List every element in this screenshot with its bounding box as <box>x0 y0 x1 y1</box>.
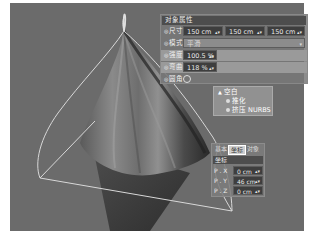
position-z-row: P . Z 0 cm ▴▾ <box>212 186 264 196</box>
size-label: 尺寸 <box>164 27 183 36</box>
tab-basic[interactable]: 基本 <box>213 145 229 153</box>
spinner-icon[interactable]: ▴▾ <box>255 177 260 186</box>
position-z-value: 0 cm <box>237 188 252 195</box>
position-y-field[interactable]: 46 cm ▴▾ <box>233 176 263 185</box>
tree-item-label: 空白 <box>224 88 238 96</box>
size-z-value: 150 cm <box>271 28 295 36</box>
spinner-icon[interactable]: ▴▾ <box>215 27 220 37</box>
coordinates-header: 坐标 <box>213 156 263 164</box>
size-x-field[interactable]: 150 cm ▴▾ <box>183 26 223 36</box>
position-z-field[interactable]: 0 cm ▴▾ <box>233 186 263 195</box>
spinner-icon[interactable]: ▴▾ <box>297 27 302 37</box>
object-tree-panel: ▲空白 推化 挤压 NURBS <box>213 86 273 116</box>
object-icon <box>226 108 230 112</box>
object-icon <box>226 99 230 103</box>
spinner-icon[interactable]: ▴▾ <box>255 167 260 176</box>
size-z-field[interactable]: 150 cm ▴▾ <box>267 26 305 36</box>
size-row: 尺寸 150 cm ▴▾ 150 cm ▴▾ 150 cm ▴▾ <box>161 26 307 37</box>
position-x-value: 0 cm <box>237 168 252 175</box>
tab-coordinates[interactable]: 坐标 <box>228 145 246 155</box>
tab-bar: 基本 坐标 对象 <box>212 144 264 154</box>
position-x-field[interactable]: 0 cm ▴▾ <box>233 166 263 175</box>
strength-row: 强度 100.5 % ▴▾ <box>161 50 307 61</box>
mode-row: 模式 平滑 ▾ <box>161 38 307 49</box>
mode-value: 平滑 <box>187 40 201 48</box>
spinner-icon[interactable]: ▴▾ <box>257 27 262 37</box>
fillet-label: 圆角 <box>164 75 183 84</box>
bend-label: 弯曲 <box>164 63 183 72</box>
spinner-icon[interactable]: ▴▾ <box>209 63 214 73</box>
bend-row: 弯曲 118 % ▴▾ <box>161 62 307 73</box>
bend-value: 118 % <box>187 64 208 72</box>
spinner-icon[interactable]: ▴▾ <box>255 187 260 196</box>
tab-object[interactable]: 对象 <box>245 145 261 153</box>
bend-field[interactable]: 118 % ▴▾ <box>183 62 217 72</box>
position-x-row: P . X 0 cm ▴▾ <box>212 166 264 176</box>
spinner-icon[interactable]: ▴▾ <box>209 51 214 61</box>
strength-field[interactable]: 100.5 % ▴▾ <box>183 50 217 60</box>
size-y-field[interactable]: 150 cm ▴▾ <box>225 26 265 36</box>
tree-item-label: 挤压 NURBS <box>232 106 271 114</box>
tree-item-label: 推化 <box>232 97 246 105</box>
position-z-label: P . Z <box>214 187 227 195</box>
attributes-panel: 对象属性 尺寸 150 cm ▴▾ 150 cm ▴▾ 150 cm ▴▾ 模式… <box>160 14 308 84</box>
tree-item-null[interactable]: ▲空白 <box>218 88 238 96</box>
position-y-value: 46 cm <box>237 178 256 185</box>
size-x-value: 150 cm <box>187 28 211 36</box>
fillet-row: 圆角 <box>161 74 307 85</box>
position-y-label: P . Y <box>214 177 227 185</box>
tree-item-subdivide[interactable]: 推化 <box>226 97 246 105</box>
size-y-value: 150 cm <box>229 28 253 36</box>
fillet-checkbox[interactable] <box>183 75 191 83</box>
chevron-down-icon: ▾ <box>299 39 302 49</box>
expand-icon[interactable]: ▲ <box>218 89 222 95</box>
attributes-title: 对象属性 <box>162 16 306 25</box>
tree-item-extrude-nurbs[interactable]: 挤压 NURBS <box>226 106 271 114</box>
position-x-label: P . X <box>214 167 227 175</box>
coordinates-panel: 基本 坐标 对象 坐标 P . X 0 cm ▴▾ P . Y 46 cm ▴▾… <box>211 143 265 197</box>
strength-label: 强度 <box>164 51 183 60</box>
position-y-row: P . Y 46 cm ▴▾ <box>212 176 264 186</box>
mode-label: 模式 <box>164 39 183 48</box>
mode-dropdown[interactable]: 平滑 ▾ <box>183 38 305 48</box>
